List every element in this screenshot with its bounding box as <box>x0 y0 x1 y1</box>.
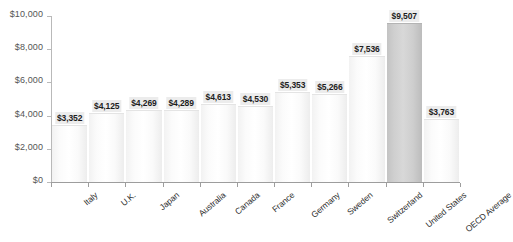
bar[interactable] <box>275 92 310 182</box>
bar-slot: $9,507 <box>386 16 423 182</box>
x-axis-category-label: Canada <box>233 190 262 216</box>
x-axis-tick-mark <box>386 183 387 187</box>
bar-value-label: $4,125 <box>92 100 121 112</box>
x-axis-tick-mark <box>200 183 201 187</box>
y-axis-tick-label: $10,000 <box>10 9 43 19</box>
x-axis-tick-mark <box>348 183 349 187</box>
x-axis-category-label: France <box>270 190 296 214</box>
x-axis-tick-mark <box>460 183 461 187</box>
y-axis-tick-label: $0 <box>33 175 43 185</box>
bar[interactable] <box>201 104 236 182</box>
bar-value-label: $9,507 <box>390 10 419 22</box>
bar-value-label: $3,763 <box>427 106 456 118</box>
bar-value-label: $7,536 <box>352 43 381 55</box>
bar[interactable] <box>238 106 273 182</box>
bar-slot: $4,289 <box>163 16 200 182</box>
bar[interactable] <box>164 110 199 182</box>
x-axis-line <box>51 182 460 183</box>
bar-slot: $3,763 <box>423 16 460 182</box>
bar[interactable] <box>349 56 384 182</box>
bar-value-label: $5,266 <box>315 81 344 93</box>
x-axis-category-label: Japan <box>157 190 181 212</box>
bar-slot: $4,530 <box>237 16 274 182</box>
bar-value-label: $4,289 <box>166 97 195 109</box>
x-axis-category-label: Australia <box>197 190 228 218</box>
bar[interactable] <box>52 125 87 182</box>
bar[interactable] <box>387 23 422 182</box>
bar-value-label: $3,352 <box>55 112 84 124</box>
bar[interactable] <box>312 94 347 182</box>
x-axis-tick-mark <box>237 183 238 187</box>
x-axis-tick-mark <box>88 183 89 187</box>
x-axis-tick-mark <box>423 183 424 187</box>
bar-slot: $3,352 <box>51 16 88 182</box>
x-axis-tick-mark <box>163 183 164 187</box>
y-axis-tick-label: $4,000 <box>15 109 43 119</box>
bar-value-label: $4,269 <box>129 97 158 109</box>
bar[interactable] <box>126 110 161 182</box>
bar[interactable] <box>424 119 459 182</box>
bar-slot: $4,613 <box>200 16 237 182</box>
x-axis-category-label: Sweden <box>345 190 375 217</box>
y-axis-tick-label: $2,000 <box>15 142 43 152</box>
bar-value-label: $5,353 <box>278 79 307 91</box>
x-axis-category-label: U.K. <box>119 190 138 208</box>
x-axis-tick-mark <box>51 183 52 187</box>
y-axis-tick-label: $8,000 <box>15 42 43 52</box>
plot-area: $3,352$4,125$4,269$4,289$4,613$4,530$5,3… <box>51 16 460 182</box>
x-axis-tick-mark <box>125 183 126 187</box>
bar-slot: $5,353 <box>274 16 311 182</box>
bar-slot: $4,269 <box>125 16 162 182</box>
bar-slot: $4,125 <box>88 16 125 182</box>
y-axis-tick-label: $6,000 <box>15 75 43 85</box>
x-axis-category-label: Germany <box>309 190 342 220</box>
bar-value-label: $4,530 <box>241 93 270 105</box>
bar[interactable] <box>89 113 124 182</box>
x-axis-category-label: Switzerland <box>385 190 424 225</box>
bar-slot: $5,266 <box>311 16 348 182</box>
x-axis-category-label: Italy <box>81 190 99 207</box>
x-axis-category-label: United States <box>424 190 469 230</box>
x-axis-tick-mark <box>274 183 275 187</box>
bar-slot: $7,536 <box>348 16 385 182</box>
x-axis-tick-mark <box>311 183 312 187</box>
bar-value-label: $4,613 <box>204 91 233 103</box>
x-axis-category-label: OECD Average <box>463 190 513 234</box>
